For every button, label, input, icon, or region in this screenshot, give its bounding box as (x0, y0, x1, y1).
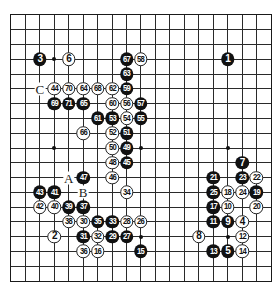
move-number: 30 (80, 217, 87, 226)
white-stone-2: 2 (48, 230, 62, 244)
black-stone-37: 37 (76, 200, 90, 214)
move-number: 21 (210, 173, 217, 182)
move-number: 5 (225, 246, 230, 256)
go-board: ABC 123456789101112131415161718192021222… (0, 0, 278, 294)
move-number: 28 (123, 217, 130, 226)
move-number: 34 (123, 188, 130, 197)
move-number: 65 (80, 99, 87, 108)
move-number: 50 (108, 144, 115, 153)
white-stone-68: 68 (91, 82, 105, 96)
black-stone-35: 35 (91, 215, 105, 229)
move-number: 53 (108, 114, 115, 123)
move-number: 59 (123, 84, 130, 93)
move-number: 11 (210, 217, 217, 226)
star-point (52, 57, 56, 61)
move-number: 39 (65, 203, 72, 212)
move-number: 1 (225, 54, 230, 64)
move-number: 42 (36, 203, 43, 212)
white-stone-40: 40 (48, 200, 62, 214)
white-stone-26: 26 (134, 215, 148, 229)
black-stone-13: 13 (206, 245, 220, 259)
move-number: 16 (94, 247, 101, 256)
white-stone-22: 22 (250, 171, 264, 185)
move-number: 25 (210, 188, 217, 197)
move-number: 6 (66, 54, 71, 64)
white-stone-70: 70 (62, 82, 76, 96)
move-number: 32 (94, 232, 101, 241)
black-stone-51: 51 (120, 126, 134, 140)
black-stone-9: 9 (221, 215, 235, 229)
white-stone-44: 44 (48, 82, 62, 96)
white-stone-32: 32 (91, 230, 105, 244)
move-number: 43 (36, 188, 43, 197)
white-stone-36: 36 (76, 245, 90, 259)
black-stone-41: 41 (48, 186, 62, 200)
white-stone-46: 46 (105, 171, 119, 185)
white-stone-12: 12 (235, 230, 249, 244)
black-stone-45: 45 (120, 156, 134, 170)
move-number: 13 (210, 247, 217, 256)
black-stone-1: 1 (221, 53, 235, 67)
move-number: 10 (224, 203, 231, 212)
position-label-c: C (35, 82, 46, 95)
black-stone-53: 53 (105, 112, 119, 126)
black-stone-59: 59 (120, 82, 134, 96)
move-number: 17 (210, 203, 217, 212)
move-number: 56 (123, 99, 130, 108)
white-stone-38: 38 (62, 215, 76, 229)
black-stone-19: 19 (250, 186, 264, 200)
white-stone-60: 60 (105, 97, 119, 111)
move-number: 48 (108, 158, 115, 167)
move-number: 45 (123, 158, 130, 167)
move-number: 71 (65, 99, 72, 108)
black-stone-7: 7 (235, 156, 249, 170)
white-stone-66: 66 (76, 126, 90, 140)
black-stone-67: 67 (120, 53, 134, 67)
move-number: 33 (108, 217, 115, 226)
black-stone-63: 63 (120, 67, 134, 81)
move-number: 38 (65, 217, 72, 226)
move-number: 8 (196, 232, 201, 242)
black-stone-29: 29 (105, 230, 119, 244)
position-label-b: B (78, 186, 89, 199)
move-number: 62 (108, 84, 115, 93)
white-stone-18: 18 (221, 186, 235, 200)
black-stone-33: 33 (105, 215, 119, 229)
move-number: 29 (108, 232, 115, 241)
move-number: 47 (80, 173, 87, 182)
move-number: 63 (123, 70, 130, 79)
black-stone-57: 57 (134, 97, 148, 111)
move-number: 18 (224, 188, 231, 197)
white-stone-30: 30 (76, 215, 90, 229)
move-number: 27 (123, 232, 130, 241)
black-stone-31: 31 (76, 230, 90, 244)
move-number: 57 (137, 99, 144, 108)
move-number: 70 (65, 84, 72, 93)
star-point (226, 235, 230, 239)
move-number: 40 (51, 203, 58, 212)
move-number: 54 (123, 114, 130, 123)
star-point (139, 146, 143, 150)
black-stone-23: 23 (235, 171, 249, 185)
white-stone-42: 42 (33, 200, 47, 214)
white-stone-14: 14 (235, 245, 249, 259)
star-point (226, 146, 230, 150)
move-number: 69 (51, 99, 58, 108)
move-number: 49 (123, 144, 130, 153)
black-stone-3: 3 (33, 53, 47, 67)
white-stone-34: 34 (120, 186, 134, 200)
white-stone-58: 58 (134, 53, 148, 67)
star-point (52, 146, 56, 150)
white-stone-4: 4 (235, 215, 249, 229)
black-stone-11: 11 (206, 215, 220, 229)
black-stone-69: 69 (48, 97, 62, 111)
move-number: 12 (238, 232, 245, 241)
move-number: 66 (80, 129, 87, 138)
white-stone-6: 6 (62, 53, 76, 67)
black-stone-49: 49 (120, 141, 134, 155)
black-stone-15: 15 (134, 245, 148, 259)
move-number: 67 (123, 55, 130, 64)
black-stone-21: 21 (206, 171, 220, 185)
white-stone-24: 24 (235, 186, 249, 200)
white-stone-28: 28 (120, 215, 134, 229)
